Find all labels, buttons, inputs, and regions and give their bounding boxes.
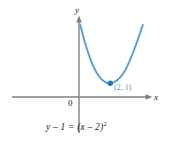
vertex-point-marker: [108, 81, 113, 86]
y-axis-label: y: [75, 6, 79, 15]
origin-label: 0: [68, 99, 73, 108]
parabola-curve: [80, 25, 143, 84]
vertex-coordinate-label: (2, 1): [114, 84, 131, 92]
parabola-figure: y x 0 (2, 1) y – 1 = (x – 2)2: [0, 0, 169, 144]
x-axis-label: x: [154, 93, 158, 102]
x-axis-arrowhead: [146, 94, 153, 100]
equation-base: y – 1 = (x – 2): [46, 122, 103, 132]
y-axis-arrowhead: [76, 16, 82, 23]
equation-exponent: 2: [103, 120, 106, 127]
equation-caption: y – 1 = (x – 2)2: [46, 121, 107, 133]
